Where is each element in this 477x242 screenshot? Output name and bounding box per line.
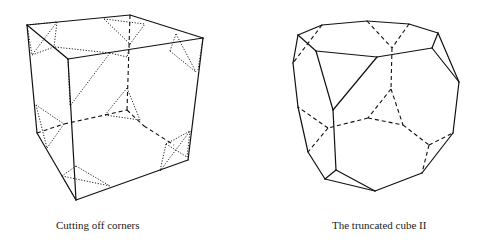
dashed-edge	[368, 118, 403, 125]
caption-cutting-off-corners: Cutting off corners	[56, 219, 140, 231]
dashed-edge	[403, 125, 429, 145]
solid-edge	[377, 48, 432, 57]
solid-edge	[293, 35, 298, 63]
solid-edge	[130, 15, 203, 38]
solid-edge	[68, 38, 203, 59]
solid-edge	[68, 59, 76, 200]
dotted-edge	[170, 51, 196, 72]
dotted-edge	[55, 47, 110, 53]
solid-edge	[76, 160, 188, 200]
solid-edge	[438, 33, 459, 82]
dotted-edge	[127, 88, 140, 120]
dashed-edge	[64, 115, 105, 124]
solid-edge	[298, 35, 316, 51]
cube-with-cut-corners-figure	[27, 15, 203, 200]
diagram-canvas	[0, 0, 477, 242]
dotted-edge	[160, 144, 166, 171]
solid-edge	[308, 152, 325, 179]
solid-edge	[37, 133, 76, 200]
dotted-edge	[70, 53, 110, 106]
dotted-edge	[104, 19, 145, 24]
dotted-edge	[62, 176, 110, 186]
dashed-edge	[127, 110, 144, 126]
solid-edge	[325, 179, 375, 191]
solid-edge	[27, 15, 130, 25]
solid-edge	[293, 63, 298, 107]
solid-edge	[333, 57, 377, 110]
caption-truncated-cube: The truncated cube II	[332, 219, 426, 231]
solid-edge	[432, 48, 459, 82]
solid-edge	[432, 33, 438, 48]
solid-edge	[27, 25, 37, 133]
dotted-edge	[130, 24, 145, 44]
solid-edge	[298, 25, 322, 35]
solid-edge	[322, 21, 367, 25]
dotted-edge	[110, 53, 127, 57]
dashed-edge	[368, 89, 391, 118]
dashed-edge	[308, 128, 328, 152]
dashed-edge	[392, 24, 409, 48]
dotted-edge	[104, 19, 130, 44]
dashed-edge	[367, 21, 392, 48]
dashed-edge	[127, 15, 130, 110]
dashed-edge	[37, 124, 64, 133]
dashed-edge	[144, 126, 174, 145]
solid-edge	[367, 21, 409, 24]
solid-edge	[325, 170, 336, 179]
solid-edge	[316, 51, 333, 110]
dotted-edge	[47, 124, 64, 148]
dashed-edge	[391, 89, 403, 125]
dotted-edge	[54, 22, 57, 47]
truncated-cube-figure	[293, 21, 459, 191]
solid-edge	[333, 110, 336, 170]
dotted-edge	[76, 166, 110, 186]
solid-edge	[298, 107, 308, 152]
solid-edge	[409, 24, 438, 33]
dashed-edge	[429, 133, 453, 145]
solid-edge	[316, 51, 377, 57]
dashed-edge	[105, 110, 127, 115]
dotted-edge	[32, 22, 57, 55]
solid-edge	[188, 38, 203, 160]
dotted-edge	[36, 105, 64, 124]
solid-edge	[336, 170, 375, 191]
dotted-edge	[32, 47, 54, 55]
dotted-edge	[105, 88, 127, 115]
solid-edge	[375, 173, 422, 191]
dotted-edge	[166, 144, 187, 157]
solid-edge	[453, 82, 459, 133]
